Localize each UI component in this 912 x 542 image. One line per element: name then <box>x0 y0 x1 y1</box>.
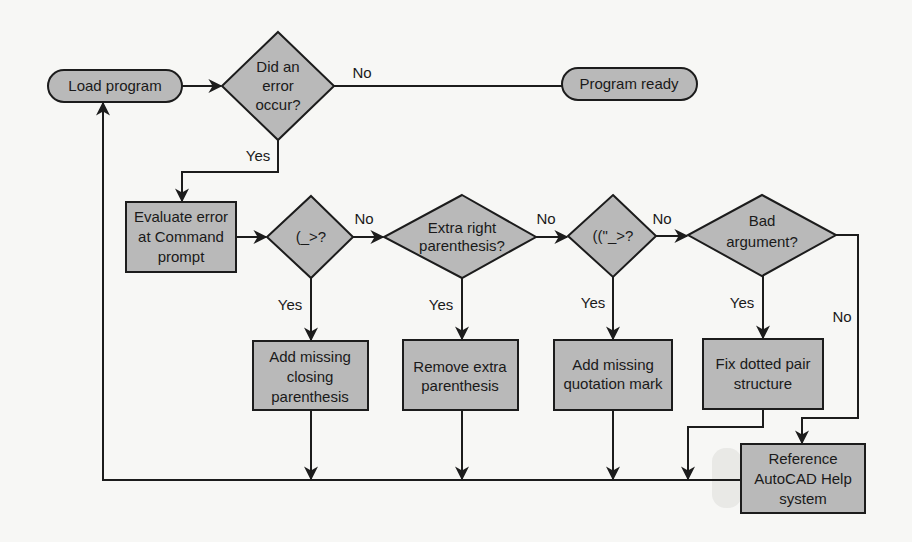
node-quote-prompt[interactable]: (("_>? <box>568 195 656 277</box>
node-label-line-1: Remove extra <box>413 358 507 375</box>
node-label-line-3: parenthesis <box>271 388 349 405</box>
node-label-line-2: AutoCAD Help <box>754 470 852 487</box>
flowchart-canvas: Load program Did an error occur? Program… <box>0 0 912 542</box>
node-label-line-3: system <box>779 490 827 507</box>
node-label-line-1: Evaluate error <box>134 208 228 225</box>
node-label-line-1: Extra right <box>428 219 497 236</box>
edge-return-to-load <box>103 103 741 480</box>
node-program-ready[interactable]: Program ready <box>562 68 697 100</box>
node-label-line-2: error <box>262 77 294 94</box>
edge-label-quote-no: No <box>652 210 671 227</box>
node-bad-argument[interactable]: Bad argument? <box>688 195 836 276</box>
node-label-line-3: prompt <box>158 248 206 265</box>
edge-label-quote-yes: Yes <box>581 294 605 311</box>
node-label-line-2: at Command <box>138 228 224 245</box>
edge-label-extra-yes: Yes <box>429 296 453 313</box>
node-label-line-1: Fix dotted pair <box>715 355 810 372</box>
node-reference-help[interactable]: Reference AutoCAD Help system <box>741 444 865 513</box>
node-label-line-1: Add missing <box>572 356 654 373</box>
edge-label-paren-no: No <box>354 210 373 227</box>
node-label-line-2: parenthesis <box>421 377 499 394</box>
node-label-line-3: occur? <box>255 96 300 113</box>
edge-label-bad-no: No <box>832 308 851 325</box>
node-add-closing-paren[interactable]: Add missing closing parenthesis <box>253 341 368 410</box>
node-evaluate-error[interactable]: Evaluate error at Command prompt <box>126 202 236 272</box>
node-did-error-occur[interactable]: Did an error occur? <box>222 32 334 140</box>
node-label-line-2: argument? <box>726 233 798 250</box>
node-label: (_>? <box>296 228 326 245</box>
edge-label-bad-yes: Yes <box>730 294 754 311</box>
node-extra-right-paren[interactable]: Extra right parenthesis? <box>384 195 536 278</box>
node-add-quotation-mark[interactable]: Add missing quotation mark <box>554 340 672 410</box>
edge-label-extra-no: No <box>536 210 555 227</box>
node-fix-dotted-pair[interactable]: Fix dotted pair structure <box>703 339 823 409</box>
node-label: (("_>? <box>593 227 634 244</box>
shadow-smudge <box>712 448 742 508</box>
node-label-line-1: Did an <box>256 58 299 75</box>
node-label-line-2: structure <box>734 375 792 392</box>
edge-labels: No Yes No Yes No Yes No Yes No Yes <box>246 64 852 325</box>
node-paren-prompt[interactable]: (_>? <box>267 196 353 278</box>
node-label-line-2: quotation mark <box>563 375 663 392</box>
node-label-line-1: Reference <box>768 450 837 467</box>
node-remove-extra-paren[interactable]: Remove extra parenthesis <box>403 340 518 410</box>
edge-label-paren-yes: Yes <box>278 296 302 313</box>
node-label-line-1: Add missing <box>269 348 351 365</box>
node-label: Load program <box>68 77 161 94</box>
edge-label-error-no: No <box>352 64 371 81</box>
edge-label-error-yes: Yes <box>246 147 270 164</box>
edges <box>103 86 858 480</box>
node-label-line-1: Bad <box>749 212 776 229</box>
node-label-line-2: parenthesis? <box>419 237 505 254</box>
node-load-program[interactable]: Load program <box>48 70 182 102</box>
node-label: Program ready <box>579 75 679 92</box>
node-label-line-2: closing <box>287 368 334 385</box>
